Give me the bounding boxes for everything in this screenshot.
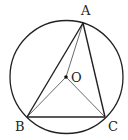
center-point-O: [64, 75, 68, 79]
label-C: C: [108, 119, 118, 134]
label-A: A: [80, 3, 91, 18]
diagram-canvas: A B C O: [0, 0, 128, 140]
geometry-figure: A B C O: [0, 0, 128, 140]
label-B: B: [15, 119, 25, 134]
label-O: O: [71, 70, 82, 85]
segment-OA: [66, 23, 83, 77]
segment-CA: [83, 23, 105, 117]
